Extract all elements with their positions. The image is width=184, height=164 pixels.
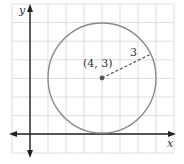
- y-axis-bottom-arrow-icon: [27, 150, 33, 158]
- y-axis: [27, 4, 33, 158]
- grid: [12, 4, 174, 153]
- x-axis-left-arrow-icon: [9, 131, 17, 137]
- y-axis-top-arrow-icon: [27, 4, 33, 12]
- center-point-label: (4, 3): [83, 57, 113, 70]
- center-point: [100, 76, 105, 81]
- coordinate-plane-figure: (4, 3) 3 y x: [0, 0, 184, 164]
- y-axis-label: y: [18, 4, 26, 17]
- x-axis-label: x: [167, 137, 174, 150]
- radius-label: 3: [130, 46, 137, 59]
